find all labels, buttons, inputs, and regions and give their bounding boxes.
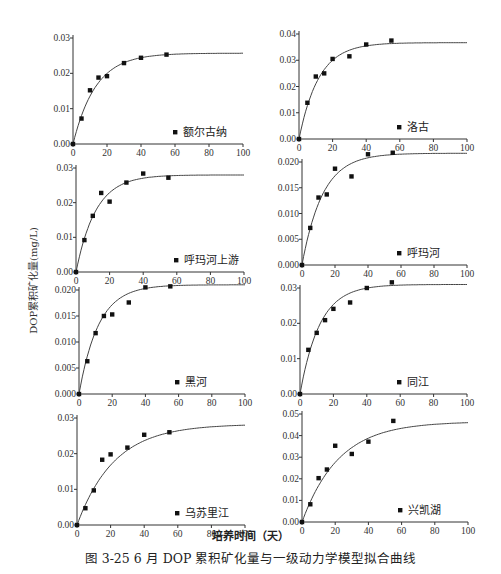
y-tick-label: 0.00 bbox=[282, 517, 299, 527]
y-tick-label: 0.03 bbox=[56, 163, 73, 173]
x-tick-label: 0 bbox=[71, 148, 76, 158]
x-tick-label: 40 bbox=[361, 143, 371, 153]
x-tick-label: 100 bbox=[460, 269, 475, 279]
subplot-2: 0.000.010.020.030.04020406080100洛古 bbox=[279, 29, 474, 153]
x-tick-label: 60 bbox=[395, 398, 405, 408]
y-tick-label: 0.04 bbox=[279, 29, 296, 39]
data-point bbox=[316, 476, 320, 480]
y-tick-label: 0.015 bbox=[55, 311, 77, 321]
data-point bbox=[331, 307, 335, 311]
subplot-3: 0.000.010.020.03020406080100呼玛河上游 bbox=[56, 163, 251, 286]
y-axis-label-text: DOP累积矿化量(mg/L) bbox=[25, 227, 40, 334]
data-point bbox=[79, 116, 83, 120]
data-point bbox=[297, 137, 301, 141]
data-point bbox=[105, 74, 109, 78]
data-point bbox=[71, 142, 75, 146]
data-point bbox=[125, 445, 129, 449]
y-tick-label: 0.010 bbox=[278, 209, 300, 219]
legend-marker bbox=[175, 511, 179, 515]
subplot-8: 0.000.010.020.030.040.05020406080100兴凯湖 bbox=[282, 409, 475, 536]
data-point bbox=[127, 300, 131, 304]
data-point bbox=[305, 101, 309, 105]
y-tick-label: 0.02 bbox=[280, 318, 297, 328]
data-point bbox=[100, 458, 104, 462]
y-tick-label: 0.020 bbox=[55, 285, 77, 295]
y-tick-label: 0.05 bbox=[282, 409, 299, 419]
data-point bbox=[141, 171, 145, 175]
y-tick-label: 0.01 bbox=[282, 495, 299, 505]
data-point bbox=[88, 88, 92, 92]
legend-marker bbox=[397, 251, 401, 255]
subplot-4: 0.0000.0050.0100.0150.020020406080100呼玛河 bbox=[278, 151, 475, 279]
x-tick-label: 20 bbox=[328, 143, 338, 153]
y-tick-label: 0.01 bbox=[280, 354, 297, 364]
data-point bbox=[316, 195, 320, 199]
data-point bbox=[96, 75, 100, 79]
subplots-grid: 0.000.010.020.03020406080100额尔古纳0.000.01… bbox=[0, 0, 501, 574]
legend-label: 洛古 bbox=[407, 120, 429, 133]
legend-marker bbox=[175, 380, 179, 384]
fit-curve bbox=[79, 285, 245, 394]
legend-label: 呼玛河上游 bbox=[184, 254, 239, 266]
subplot-5: 0.0000.0050.0100.0150.020020406080100黑河 bbox=[55, 284, 253, 408]
y-tick-label: 0.000 bbox=[278, 260, 300, 270]
legend-label: 兴凯湖 bbox=[408, 504, 441, 516]
shared-y-axis-label: DOP累积矿化量(mg/L) bbox=[22, 195, 42, 365]
x-tick-label: 0 bbox=[297, 143, 302, 153]
y-tick-label: 0.00 bbox=[279, 134, 296, 144]
data-point bbox=[77, 392, 81, 396]
data-point bbox=[110, 312, 114, 316]
y-tick-label: 0.010 bbox=[55, 337, 77, 347]
data-point bbox=[390, 280, 394, 284]
data-point bbox=[325, 467, 329, 471]
data-point bbox=[74, 270, 78, 274]
data-point bbox=[300, 263, 304, 267]
legend-marker bbox=[173, 130, 177, 134]
data-point bbox=[366, 439, 370, 443]
data-point bbox=[308, 502, 312, 506]
x-tick-label: 0 bbox=[298, 398, 303, 408]
y-tick-label: 0.00 bbox=[53, 139, 70, 149]
x-tick-label: 80 bbox=[429, 398, 439, 408]
data-point bbox=[349, 174, 353, 178]
data-point bbox=[139, 56, 143, 60]
subplot-7: 0.000.010.020.03020406080100乌苏里江 bbox=[57, 413, 252, 539]
x-tick-label: 40 bbox=[138, 276, 148, 286]
fit-curve bbox=[299, 43, 467, 139]
y-tick-label: 0.03 bbox=[282, 452, 299, 462]
y-tick-label: 0.02 bbox=[279, 82, 296, 92]
data-point bbox=[142, 433, 146, 437]
data-point bbox=[83, 506, 87, 510]
x-tick-label: 0 bbox=[300, 269, 305, 279]
x-tick-label: 60 bbox=[170, 148, 180, 158]
shared-x-axis-label: 培养时间（天） bbox=[0, 527, 501, 543]
data-point bbox=[108, 452, 112, 456]
subplot-6: 0.000.010.020.03020406080100同江 bbox=[280, 280, 474, 408]
data-point bbox=[391, 151, 395, 155]
data-point bbox=[164, 52, 168, 56]
data-point bbox=[315, 331, 319, 335]
subplot-1: 0.000.010.020.03020406080100额尔古纳 bbox=[53, 33, 250, 158]
legend-label: 乌苏里江 bbox=[185, 506, 229, 519]
legend-label: 同江 bbox=[407, 376, 429, 388]
x-tick-label: 60 bbox=[174, 398, 184, 408]
figure-caption: 图 3-25 6 月 DOP 累积矿化量与一级动力学模型拟合曲线 bbox=[0, 548, 501, 567]
y-tick-label: 0.005 bbox=[278, 234, 300, 244]
data-point bbox=[167, 430, 171, 434]
figure: 0.000.010.020.03020406080100额尔古纳0.000.01… bbox=[0, 0, 501, 574]
x-tick-label: 20 bbox=[330, 269, 340, 279]
data-point bbox=[350, 452, 354, 456]
data-point bbox=[365, 286, 369, 290]
data-point bbox=[308, 226, 312, 230]
x-tick-label: 80 bbox=[204, 148, 214, 158]
x-tick-label: 40 bbox=[141, 398, 151, 408]
x-tick-label: 100 bbox=[460, 398, 475, 408]
y-tick-label: 0.005 bbox=[55, 363, 77, 373]
y-tick-label: 0.01 bbox=[53, 104, 70, 114]
data-point bbox=[364, 42, 368, 46]
data-point bbox=[389, 38, 393, 42]
x-tick-label: 60 bbox=[395, 143, 405, 153]
data-point bbox=[325, 192, 329, 196]
data-point bbox=[124, 180, 128, 184]
data-point bbox=[322, 71, 326, 75]
